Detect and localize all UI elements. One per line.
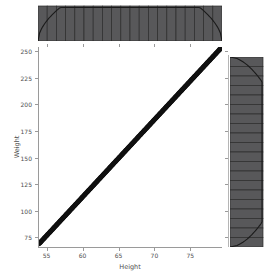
marginal-y-tick-mark [225,131,228,132]
marginal-x-svg [38,5,222,41]
marginal-x-ticks [38,41,222,44]
histogram-bar [139,6,148,41]
y-tick-mark [35,158,38,159]
scatter-points-group [38,47,222,247]
marginal-y-histogram [230,57,264,247]
x-tick-label: 70 [151,252,159,259]
y-axis-label: Weight [13,136,21,159]
histogram-bar [56,6,65,41]
y-tick-label: 225 [21,74,32,81]
marginal-y-tick-mark [225,158,228,159]
marginal-y-tick-mark [225,51,228,52]
histogram-bar [230,228,263,238]
histogram-bar [176,6,185,41]
histogram-bar [230,86,263,96]
histogram-bar [185,6,194,41]
y-tick-label: 125 [21,181,32,188]
histogram-bar [194,6,203,41]
y-tick-mark [35,184,38,185]
histogram-bar [230,114,263,124]
histogram-bar [158,6,167,41]
marginal-y-tick-mark [225,184,228,185]
histogram-bar [230,133,263,143]
histogram-bar [230,105,263,115]
marginal-y-tick-mark [225,78,228,79]
histogram-bar [93,6,102,41]
histogram-bar [230,67,263,77]
x-axis-label: Height [119,263,141,271]
jointplot-figure: 5560657075 75100125150175200225250 Heigh… [0,0,274,278]
histogram-bar [148,6,157,41]
marginal-y-svg [230,57,264,247]
x-tick-label: 55 [43,252,51,259]
x-tick-label: 65 [115,252,123,259]
marginal-y-ticks [228,57,231,247]
histogram-bar [84,6,93,41]
histogram-bar [167,6,176,41]
marginal-y-tick-mark [225,211,228,212]
y-tick-label: 100 [21,207,32,214]
x-tick-mark [154,248,155,251]
histogram-bar [102,6,111,41]
y-tick-label: 250 [21,48,32,55]
x-tick-mark [119,248,120,251]
histogram-bar [230,200,263,210]
y-axis-spine [38,47,39,247]
scatter-dots [38,47,222,246]
histogram-bar [130,6,139,41]
histogram-bar [121,6,130,41]
histogram-bar [230,209,263,219]
y-tick-label: 150 [21,154,32,161]
x-tick-mark [83,248,84,251]
histogram-bar [230,95,263,105]
histogram-bar [75,6,84,41]
joint-plot-area [38,47,222,247]
histogram-bar [230,152,263,162]
x-tick-mark [47,248,48,251]
histogram-bar [230,190,263,200]
y-tick-mark [35,237,38,238]
marginal-y-tick-mark [225,104,228,105]
marginal-y-tick-mark [225,237,228,238]
histogram-bar [230,181,263,191]
histogram-bar [230,162,263,172]
histogram-bar [230,124,263,134]
x-tick-label: 75 [187,252,195,259]
y-tick-label: 75 [24,234,32,241]
marginal-x-histogram [38,5,222,41]
x-tick-mark [190,248,191,251]
y-tick-mark [35,78,38,79]
marginal-x-bars [38,6,222,41]
y-tick-mark [35,131,38,132]
scatter-svg [38,47,222,247]
y-tick-label: 175 [21,128,32,135]
y-tick-mark [35,51,38,52]
histogram-bar [230,143,263,153]
histogram-bar [112,6,121,41]
marginal-y-bars [230,57,263,247]
histogram-bar [230,76,263,86]
x-axis-spine [38,247,222,248]
histogram-bar [230,219,263,229]
y-tick-mark [35,104,38,105]
histogram-bar [230,171,263,181]
y-tick-mark [35,211,38,212]
histogram-bar [66,6,75,41]
x-tick-label: 60 [79,252,87,259]
y-tick-label: 200 [21,101,32,108]
